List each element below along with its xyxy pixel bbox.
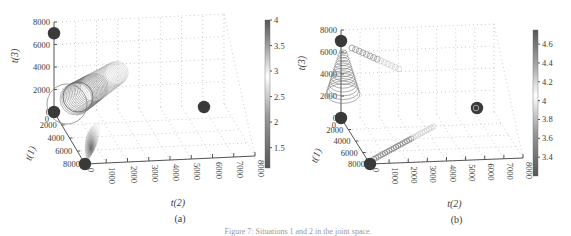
grid-line [224, 104, 255, 156]
x-tick-label: 8000 [524, 162, 534, 179]
x-tick-label: 4000 [171, 164, 181, 181]
fan-region [85, 120, 101, 160]
figure-caption: Figure 7: Situations 1 and 2 in the join… [224, 227, 371, 236]
x-tick-label: 2000 [409, 167, 419, 184]
ring-marker [381, 59, 387, 65]
subplot-a: 0200040006000800002000400060008000010002… [9, 14, 285, 225]
ring-marker [392, 64, 398, 70]
grid-lines [341, 24, 523, 164]
z-tick-label: 8000 [320, 25, 337, 35]
x-tick-label: 2000 [129, 166, 139, 183]
x-tick-label: 1000 [390, 167, 400, 184]
y-tick-label: 8000 [348, 159, 365, 169]
colorbar-tick-label: 3.5 [274, 41, 285, 51]
colorbar-tick-label: 3.6 [542, 133, 553, 143]
anchor-point-t2-anchor [198, 101, 210, 113]
x-tick-label: 4000 [448, 165, 458, 182]
grid-line [118, 109, 149, 161]
trajectory-top-chain [349, 45, 402, 72]
y-tick-label: 6000 [55, 146, 72, 156]
grid-line [139, 108, 170, 160]
grid-line [54, 14, 224, 22]
z-tick-label: 4000 [33, 62, 50, 72]
grid-line [494, 24, 523, 158]
colorbar-tick-label: 2.5 [274, 92, 285, 102]
x-tick-label: 5000 [192, 163, 202, 180]
anchor-point-t2-anchor [471, 102, 483, 114]
grid-lines [54, 14, 255, 164]
ring-marker [353, 47, 359, 53]
y-axis-label: t(1) [22, 144, 38, 162]
x-tick-label: 1000 [107, 167, 117, 184]
colorbar-gradient [265, 20, 270, 168]
subplot-label: (b) [451, 214, 463, 226]
ring-marker [105, 61, 128, 84]
colorbar-tick-label: 4.6 [542, 39, 553, 49]
x-axis-label: t(2) [171, 197, 186, 209]
anchor-point-origin [48, 106, 60, 118]
y-tick-label: 6000 [341, 148, 358, 158]
grid-line [182, 106, 213, 158]
ring-marker [371, 55, 377, 61]
x-tick-label: 7000 [505, 163, 515, 180]
colorbar-tick-label: 3.8 [542, 114, 553, 124]
ring-marker [385, 61, 391, 67]
y-tick-label: 2000 [326, 125, 343, 135]
z-axis-label: t(3) [296, 55, 308, 70]
grid-line [356, 135, 509, 141]
grid-line [398, 116, 427, 162]
colorbar-tick-label: 2 [274, 117, 278, 127]
ring-marker [367, 53, 373, 59]
x-tick-label: 8000 [256, 160, 266, 177]
ring-marker [349, 45, 355, 51]
anchor-point-origin [335, 112, 347, 124]
figure: 0200040006000800002000400060008000010002… [0, 0, 571, 236]
ring-marker [389, 63, 395, 69]
colorbar-tick-label: 4.4 [542, 58, 553, 68]
ring-marker [360, 50, 366, 56]
grid-line [160, 107, 191, 159]
ring-marker [363, 51, 369, 57]
colorbar-tick-label: 1.5 [274, 143, 285, 153]
x-axis-label: t(2) [447, 198, 462, 210]
trajectory-lower-fan [85, 120, 101, 160]
anchor-point-t3-anchor [48, 27, 60, 39]
grid-line [77, 143, 247, 151]
x-tick-label: 5000 [467, 164, 477, 181]
colorbar: 3.43.63.844.24.44.6 [533, 30, 553, 176]
y-tick-label: 2000 [40, 120, 57, 130]
y-tick-label: 4000 [334, 136, 351, 146]
subplot-label: (a) [174, 213, 185, 225]
z-tick-label: 8000 [33, 17, 50, 27]
x-tick-label: 7000 [235, 161, 245, 178]
ring-marker [396, 66, 402, 72]
colorbar-tick-label: 3 [274, 66, 278, 76]
colorbar: 1.522.533.54 [265, 15, 285, 168]
z-tick-label: 2000 [33, 85, 50, 95]
ring-marker [378, 58, 384, 64]
x-tick-label: 6000 [214, 162, 224, 179]
trajectory-bottom-chain [371, 124, 436, 162]
grid-line [341, 24, 494, 30]
x-tick-label: 3000 [428, 166, 438, 183]
colorbar-gradient [533, 30, 538, 176]
colorbar-tick-label: 4 [274, 15, 279, 25]
grid-line [224, 14, 255, 156]
anchor-point-t1-anchor [79, 158, 91, 170]
subplot-b: 0200040006000800002000400060008000010002… [296, 24, 553, 226]
anchor-point-t1-anchor [364, 158, 376, 170]
z-tick-label: 2000 [320, 91, 337, 101]
grid-line [494, 112, 523, 158]
x-tick-label: 3000 [150, 165, 160, 182]
y-tick-label: 8000 [63, 159, 80, 169]
y-tick-label: 4000 [48, 133, 65, 143]
colorbar-tick-label: 4 [542, 96, 547, 106]
x-tick-label: 6000 [486, 164, 496, 181]
colorbar-tick-label: 4.2 [542, 77, 553, 87]
grid-line [437, 114, 466, 160]
z-tick-label: 6000 [33, 40, 50, 50]
anchor-point-t3-anchor [335, 35, 347, 47]
z-axis-label: t(3) [9, 48, 21, 63]
colorbar-tick-label: 3.4 [542, 152, 553, 162]
grid-line [97, 110, 128, 162]
